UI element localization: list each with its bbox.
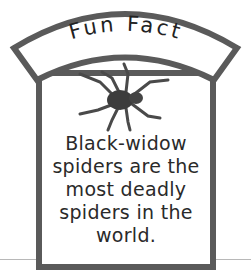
fact-text: Black-widow spiders are the most deadly … [42, 132, 210, 247]
fact-line: most deadly [42, 178, 210, 201]
fact-line: spiders are the [42, 155, 210, 178]
fact-line: world. [42, 224, 210, 247]
fact-line: Black-widow [42, 132, 210, 155]
fact-line: spiders in the [42, 201, 210, 224]
spider-icon [68, 60, 178, 132]
